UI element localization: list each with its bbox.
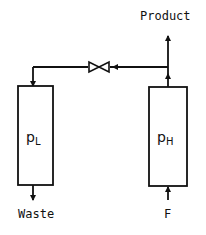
process-diagram: Product pL pH Waste F bbox=[0, 0, 206, 235]
product-label: Product bbox=[140, 9, 191, 23]
feed-label: F bbox=[164, 207, 171, 221]
flow-direction-arrow-icon bbox=[112, 64, 118, 70]
valve-icon bbox=[88, 62, 110, 73]
waste-label: Waste bbox=[18, 207, 54, 221]
riser-arrow-icon bbox=[165, 73, 171, 79]
